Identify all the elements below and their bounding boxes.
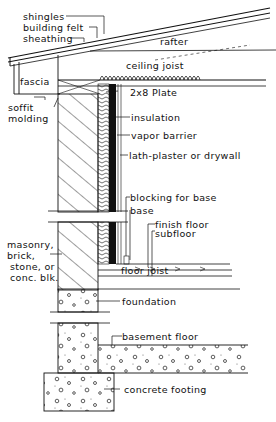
floor	[98, 264, 240, 289]
label-lath-plaster: lath-plaster or drywall	[129, 150, 241, 161]
label-floor-joist: floor joist	[121, 265, 169, 276]
label-subfloor: subfloor	[155, 228, 196, 239]
label-vapor-barrier: vapor barrier	[131, 130, 197, 141]
label-rafter: rafter	[160, 36, 188, 47]
label-sheathing: sheathing	[23, 33, 73, 44]
label-building-felt: building felt	[23, 22, 84, 33]
label-insulation: insulation	[131, 112, 180, 123]
label-foundation: foundation	[122, 296, 176, 307]
upper-wall	[48, 84, 128, 212]
lower-wall	[48, 222, 129, 290]
label-soffit: soffit	[8, 102, 34, 113]
label-2x8-plate: 2x8 Plate	[130, 87, 177, 98]
label-base: base	[130, 205, 154, 216]
label-masonry-2: brick,	[7, 250, 35, 261]
label-concrete-footing: concrete footing	[124, 384, 207, 395]
label-shingles: shingles	[23, 11, 65, 22]
label-masonry-3: stone, or	[10, 261, 55, 272]
label-masonry-4: conc. blk.	[10, 272, 59, 283]
wall-section-diagram: shingles building felt sheathing rafter …	[0, 0, 276, 422]
label-basement-floor: basement floor	[122, 331, 198, 342]
label-masonry-1: masonry,	[7, 239, 54, 250]
label-blocking-for-base: blocking for base	[130, 192, 217, 203]
label-fascia: fascia	[20, 76, 50, 87]
label-ceiling-joist: ceiling joist	[126, 60, 184, 71]
label-molding: molding	[8, 113, 49, 124]
